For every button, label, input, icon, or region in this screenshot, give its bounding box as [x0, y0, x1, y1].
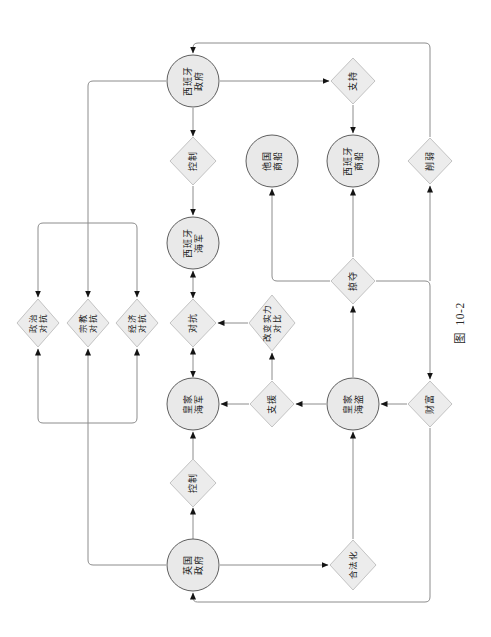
node-shape-control-left	[170, 459, 216, 507]
node-shape-spanish-navy	[167, 217, 219, 269]
node-shape-weaken	[408, 138, 452, 184]
node-shape-economic-confrontation	[116, 299, 158, 347]
node-shape-confrontation	[170, 299, 216, 347]
node-shape-assist	[250, 381, 294, 427]
node-shape-wealth	[408, 381, 452, 427]
node-shape-uk-government	[167, 539, 219, 591]
node-shape-religious-confrontation	[67, 299, 109, 347]
edge-weaken-to-spanish-government	[193, 43, 430, 137]
edge-plunder-to-other-merchant-ships	[272, 189, 330, 281]
edge-spanish-government-to-economic-confrontation	[88, 223, 137, 297]
flowchart-canvas	[0, 0, 491, 637]
node-shape-support	[331, 58, 375, 104]
node-shape-legalization	[330, 540, 376, 590]
node-shape-balance-of-power	[249, 295, 295, 351]
edge-plunder-to-wealth	[376, 281, 430, 379]
figure-10-2-page: 英国政府控制皇家海军对抗西班牙海军控制西班牙政府政治对抗宗教对抗经济对抗支援改变…	[0, 0, 491, 637]
node-shape-spanish-government	[167, 55, 219, 107]
edge-uk-government-to-political-confrontation	[38, 349, 88, 423]
node-shape-plunder	[331, 258, 375, 304]
edge-spanish-government-to-political-confrontation	[38, 223, 88, 297]
edge-uk-government-to-religious-confrontation	[88, 349, 166, 565]
edge-spanish-government-to-religious-confrontation	[88, 81, 166, 297]
node-shape-royal-navy	[167, 378, 219, 430]
node-shape-royal-pirates	[327, 378, 379, 430]
edge-uk-government-to-economic-confrontation	[88, 349, 137, 423]
node-shape-spanish-merchant-ships	[327, 135, 379, 187]
figure-caption: 图 10-2	[451, 302, 467, 343]
flowchart: 英国政府控制皇家海军对抗西班牙海军控制西班牙政府政治对抗宗教对抗经济对抗支援改变…	[0, 0, 491, 637]
node-shape-other-merchant-ships	[246, 135, 298, 187]
node-shape-political-confrontation	[17, 299, 59, 347]
node-shape-control-right	[170, 137, 216, 185]
edge-wealth-to-uk-government	[193, 428, 430, 602]
